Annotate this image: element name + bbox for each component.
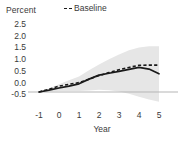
x-tick-label: 2 — [92, 111, 106, 120]
x-tick-label: 1 — [72, 111, 86, 120]
x-tick-label: 4 — [132, 111, 146, 120]
x-tick-label: 5 — [152, 111, 166, 120]
chart-container: Percent Baseline 2.5 2.0 1.5 1.0 0.5 0.0… — [0, 0, 178, 141]
x-tick-label: -1 — [32, 111, 46, 120]
x-axis-title: Year — [0, 124, 178, 134]
x-axis-tick-labels: -1 0 1 2 3 4 5 — [0, 0, 178, 141]
x-tick-label: 3 — [112, 111, 126, 120]
x-tick-label: 0 — [52, 111, 66, 120]
